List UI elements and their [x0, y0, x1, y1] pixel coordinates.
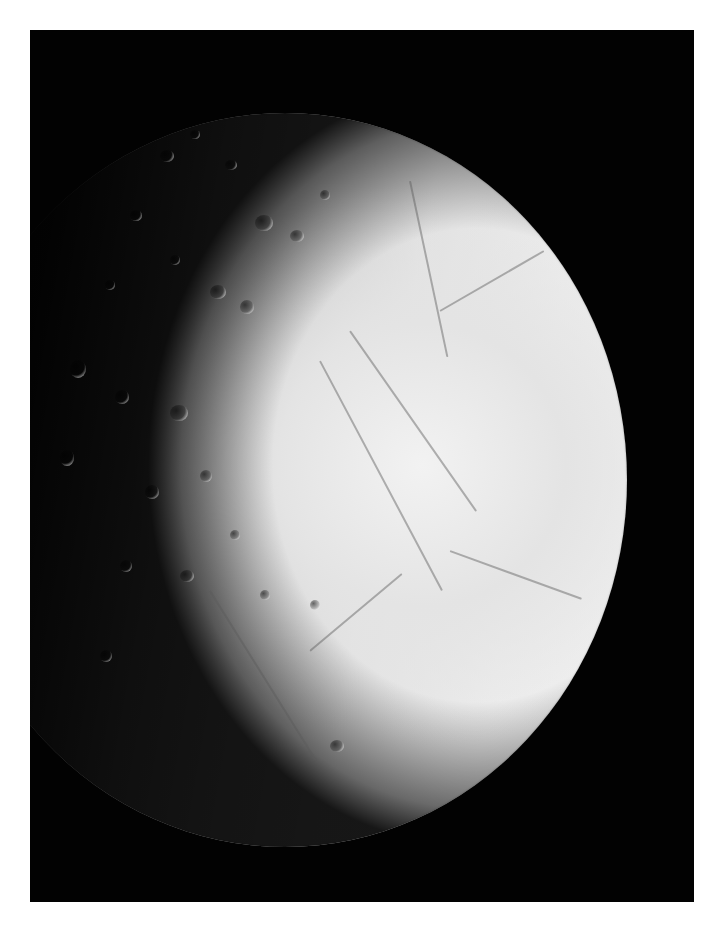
photo-frame: Grayscale photograph of a bright, icy mo… — [30, 30, 694, 902]
moon-disc — [30, 113, 627, 847]
